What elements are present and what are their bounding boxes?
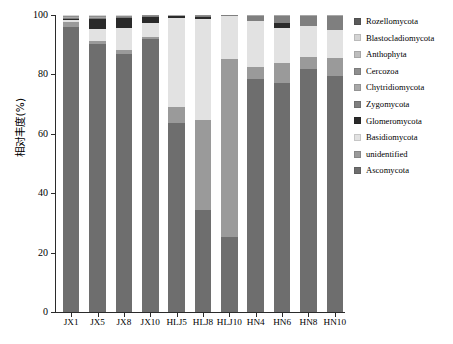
- legend-item[interactable]: Basidiomycota: [354, 129, 453, 146]
- x-axis-tick: [124, 313, 125, 317]
- legend-item[interactable]: Chytridiomycota: [354, 79, 453, 96]
- legend-item-label: Glomeromycota: [366, 117, 422, 126]
- stacked-bar[interactable]: HN8: [300, 15, 317, 312]
- bar-segment[interactable]: [168, 107, 185, 122]
- y-axis-tick-label: 40: [38, 188, 48, 198]
- plot-area: 020406080100 JX1JX5JX8JX10HLJ5HLJ8HLJ10H…: [55, 15, 345, 313]
- legend-item[interactable]: Zygomycota: [354, 96, 453, 113]
- stacked-bar[interactable]: JX1: [63, 15, 80, 312]
- bar-segment[interactable]: [195, 19, 212, 120]
- legend-item[interactable]: Rozellomycota: [354, 13, 453, 30]
- x-axis-tick-label: HN4: [247, 318, 265, 327]
- legend-swatch-icon: [354, 101, 361, 108]
- legend-item[interactable]: Ascomycota: [354, 162, 453, 179]
- bar-segment[interactable]: [168, 123, 185, 312]
- x-axis-tick: [177, 313, 178, 317]
- legend-item-label: Zygomycota: [366, 100, 409, 109]
- stacked-bar[interactable]: JX8: [116, 15, 133, 312]
- bar-segment[interactable]: [89, 29, 106, 41]
- bar-segment[interactable]: [221, 237, 238, 312]
- legend-item[interactable]: Glomeromycota: [354, 113, 453, 130]
- stacked-bar[interactable]: JX10: [142, 15, 159, 312]
- x-axis-tick-label: JX10: [141, 318, 160, 327]
- legend-item[interactable]: unidentified: [354, 146, 453, 163]
- bar-segment[interactable]: [274, 16, 291, 24]
- bar-segment[interactable]: [221, 59, 238, 237]
- x-axis-tick-label: HN10: [324, 318, 346, 327]
- bar-segment[interactable]: [195, 120, 212, 210]
- y-axis-tick: [51, 15, 55, 16]
- y-axis-tick: [51, 193, 55, 194]
- x-axis-tick: [335, 313, 336, 317]
- stacked-bar[interactable]: HLJ5: [168, 15, 185, 312]
- legend-swatch-icon: [354, 18, 361, 25]
- bar-segment[interactable]: [274, 63, 291, 83]
- bar-segment[interactable]: [327, 76, 344, 312]
- legend-item[interactable]: Anthophyta: [354, 46, 453, 63]
- y-axis-tick-label: 0: [43, 307, 48, 317]
- bar-segment[interactable]: [247, 21, 264, 68]
- bar-segment[interactable]: [116, 18, 133, 28]
- bar-segment[interactable]: [274, 83, 291, 312]
- legend-swatch-icon: [354, 117, 361, 124]
- legend-item[interactable]: Blastocladiomycota: [354, 30, 453, 47]
- legend-swatch-icon: [354, 34, 361, 41]
- y-axis-tick: [51, 134, 55, 135]
- bar-segment[interactable]: [247, 67, 264, 79]
- legend-swatch-icon: [354, 68, 361, 75]
- bar-segment[interactable]: [327, 16, 344, 30]
- y-axis-tick: [51, 74, 55, 75]
- stacked-bar[interactable]: HN4: [247, 15, 264, 312]
- legend-swatch-icon: [354, 84, 361, 91]
- bar-segment[interactable]: [327, 58, 344, 76]
- bar-segment[interactable]: [274, 28, 291, 63]
- x-axis-tick-label: JX1: [64, 318, 79, 327]
- bar-segment[interactable]: [116, 28, 133, 51]
- legend-swatch-icon: [354, 167, 361, 174]
- legend-swatch-icon: [354, 151, 361, 158]
- bar-segment[interactable]: [116, 54, 133, 312]
- bar-segment[interactable]: [247, 79, 264, 312]
- x-axis-tick-label: JX8: [117, 318, 132, 327]
- legend-swatch-icon: [354, 134, 361, 141]
- bar-segment[interactable]: [327, 30, 344, 59]
- bar-segment[interactable]: [221, 16, 238, 59]
- x-axis-tick: [282, 313, 283, 317]
- x-axis-tick: [71, 313, 72, 317]
- x-axis-tick-label: HN8: [300, 318, 318, 327]
- stacked-bar[interactable]: HN6: [274, 15, 291, 312]
- stacked-bar[interactable]: HN10: [327, 15, 344, 312]
- bar-segment[interactable]: [142, 39, 159, 312]
- bar-segment[interactable]: [300, 69, 317, 312]
- stacked-bar[interactable]: JX5: [89, 15, 106, 312]
- y-axis-tick: [51, 312, 55, 313]
- stacked-bar[interactable]: HLJ8: [195, 15, 212, 312]
- y-axis-tick-label: 100: [33, 10, 48, 20]
- bar-segment[interactable]: [89, 19, 106, 30]
- legend-item-label: Ascomycota: [366, 166, 409, 175]
- legend-item-label: Anthophyta: [366, 50, 407, 59]
- x-axis-tick-label: HN6: [273, 318, 291, 327]
- bar-segment[interactable]: [300, 16, 317, 27]
- legend-item[interactable]: Cercozoa: [354, 63, 453, 80]
- legend-item-label: Rozellomycota: [366, 17, 418, 26]
- x-axis-tick: [229, 313, 230, 317]
- x-axis-tick-label: JX5: [90, 318, 105, 327]
- bar-segment[interactable]: [195, 210, 212, 312]
- bar-segment[interactable]: [300, 57, 317, 69]
- y-axis-tick: [51, 253, 55, 254]
- y-axis-line: [55, 15, 56, 313]
- bar-segment[interactable]: [300, 26, 317, 57]
- y-axis-tick-label: 20: [38, 248, 48, 258]
- bar-segment[interactable]: [168, 18, 185, 108]
- stacked-bar[interactable]: HLJ10: [221, 15, 238, 312]
- chart-legend: RozellomycotaBlastocladiomycotaAnthophyt…: [354, 13, 453, 179]
- x-axis-tick: [308, 313, 309, 317]
- legend-item-label: Blastocladiomycota: [366, 34, 434, 43]
- bar-segment[interactable]: [89, 44, 106, 312]
- x-axis-tick-label: HLJ5: [166, 318, 186, 327]
- legend-item-label: unidentified: [366, 150, 408, 159]
- x-axis-tick-label: HLJ10: [217, 318, 242, 327]
- bar-segment[interactable]: [63, 27, 80, 312]
- bar-segment[interactable]: [142, 23, 159, 37]
